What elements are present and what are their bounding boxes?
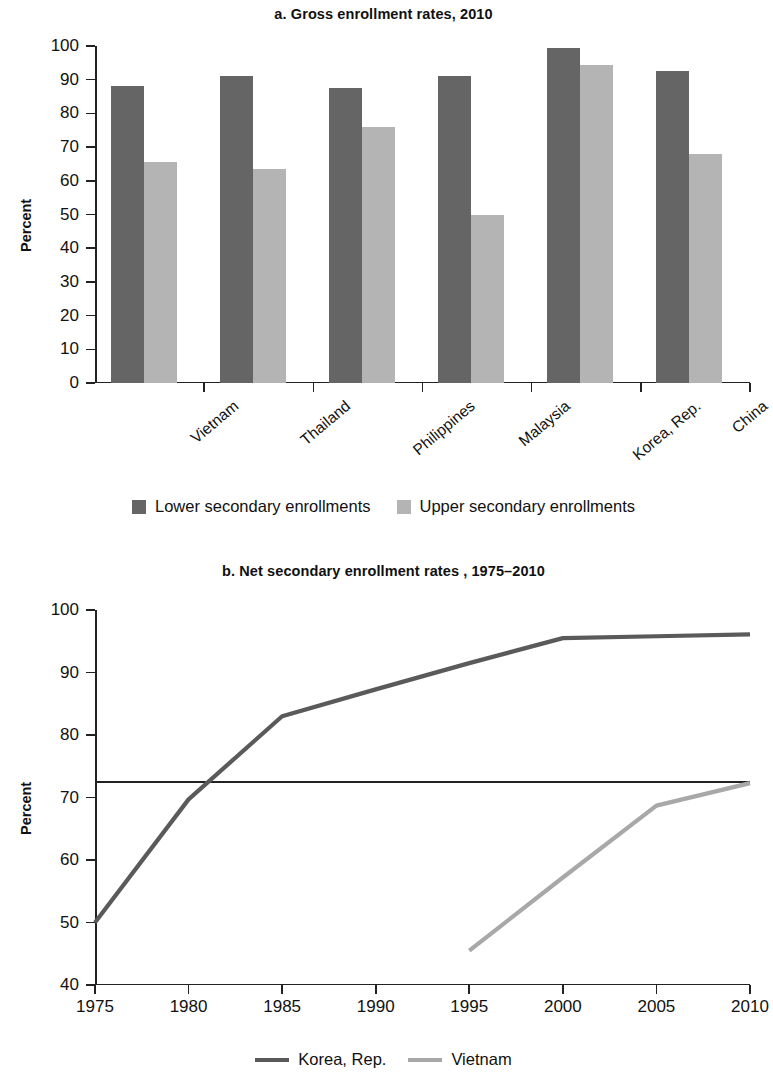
y-tick-label: 40 — [17, 976, 79, 993]
panel-b-legend: Korea, Rep. Vietnam — [0, 1050, 767, 1069]
y-tick-label: 70 — [17, 789, 79, 806]
bar-upper-secondary — [689, 154, 722, 383]
x-tick-label: 2000 — [523, 998, 603, 1015]
line-series-vietnam — [469, 783, 750, 951]
y-tick-label: 0 — [17, 374, 79, 391]
legend-label-vietnam: Vietnam — [451, 1050, 511, 1069]
y-tick-label: 100 — [17, 37, 79, 54]
y-tick-mark — [86, 315, 95, 317]
legend-label-korea: Korea, Rep. — [298, 1050, 386, 1069]
y-tick-label: 90 — [17, 664, 79, 681]
x-tick-label: 2010 — [710, 998, 773, 1015]
x-tick-label: 1985 — [242, 998, 322, 1015]
x-tick-mark — [375, 985, 377, 994]
y-tick-mark — [86, 609, 95, 611]
legend-item-korea: Korea, Rep. — [255, 1050, 386, 1069]
x-tick-label: 2005 — [616, 998, 696, 1015]
y-tick-mark — [86, 859, 95, 861]
line-series-korea — [95, 634, 750, 922]
category-label: Vietnam — [187, 397, 242, 447]
y-tick-mark — [86, 247, 95, 249]
panel-a-title: a. Gross enrollment rates, 2010 — [0, 6, 767, 22]
y-tick-label: 70 — [17, 138, 79, 155]
legend-line-icon-korea — [255, 1058, 289, 1062]
y-tick-mark — [86, 797, 95, 799]
legend-item-upper-secondary: Upper secondary enrollments — [397, 497, 636, 516]
y-tick-mark — [86, 734, 95, 736]
y-tick-label: 50 — [17, 206, 79, 223]
y-tick-mark — [86, 45, 95, 47]
y-tick-mark — [86, 281, 95, 283]
y-tick-mark — [86, 214, 95, 216]
x-tick-mark — [749, 383, 751, 392]
x-tick-mark — [562, 985, 564, 994]
panel-b-plot-area: 405060708090100 197519801985199019952000… — [95, 610, 750, 985]
y-tick-label: 90 — [17, 71, 79, 88]
bar-lower-secondary — [656, 71, 689, 383]
y-tick-mark — [86, 180, 95, 182]
x-tick-mark — [188, 985, 190, 994]
category-label: China — [729, 397, 772, 437]
bar-upper-secondary — [580, 65, 613, 383]
panel-b-line-series — [95, 610, 750, 985]
x-tick-label: 1975 — [55, 998, 135, 1015]
x-tick-mark — [203, 383, 205, 392]
bar-upper-secondary — [471, 215, 504, 384]
y-tick-mark — [86, 113, 95, 115]
panel-a-plot-area: 0102030405060708090100 VietnamThailandPh… — [95, 46, 750, 383]
y-tick-label: 10 — [17, 340, 79, 357]
y-tick-label: 60 — [17, 851, 79, 868]
bar-upper-secondary — [144, 162, 177, 383]
x-tick-mark — [656, 985, 658, 994]
y-tick-mark — [86, 922, 95, 924]
legend-label-lower: Lower secondary enrollments — [155, 497, 371, 516]
bar-upper-secondary — [253, 169, 286, 383]
x-tick-label: 1980 — [149, 998, 229, 1015]
legend-swatch-icon-lower — [132, 500, 146, 514]
x-tick-mark — [531, 383, 533, 392]
y-tick-label: 80 — [17, 726, 79, 743]
panel-b-title: b. Net secondary enrollment rates , 1975… — [0, 563, 767, 579]
legend-label-upper: Upper secondary enrollments — [420, 497, 636, 516]
x-tick-mark — [94, 985, 96, 994]
category-label: Thailand — [297, 397, 354, 449]
bar-lower-secondary — [329, 88, 362, 383]
x-tick-mark — [313, 383, 315, 392]
y-tick-mark — [86, 146, 95, 148]
y-tick-mark — [86, 79, 95, 81]
y-tick-label: 30 — [17, 273, 79, 290]
legend-item-lower-secondary: Lower secondary enrollments — [132, 497, 371, 516]
x-tick-mark — [640, 383, 642, 392]
legend-swatch-icon-upper — [397, 500, 411, 514]
legend-line-icon-vietnam — [408, 1058, 442, 1062]
bar-upper-secondary — [362, 127, 395, 383]
y-tick-label: 20 — [17, 307, 79, 324]
x-tick-mark — [468, 985, 470, 994]
bar-lower-secondary — [220, 76, 253, 383]
x-tick-label: 1995 — [429, 998, 509, 1015]
y-tick-label: 80 — [17, 104, 79, 121]
y-tick-label: 40 — [17, 239, 79, 256]
bar-lower-secondary — [438, 76, 471, 383]
x-tick-label: 1990 — [336, 998, 416, 1015]
x-tick-mark — [422, 383, 424, 392]
x-tick-mark — [281, 985, 283, 994]
panel-a-y-axis-line — [95, 46, 97, 383]
y-tick-mark — [86, 382, 95, 384]
y-tick-mark — [86, 349, 95, 351]
panel-b-net-enrollment-rates: b. Net secondary enrollment rates , 1975… — [0, 545, 767, 1088]
y-tick-label: 60 — [17, 172, 79, 189]
y-tick-label: 50 — [17, 914, 79, 931]
category-label: Korea, Rep. — [630, 397, 705, 464]
panel-a-legend: Lower secondary enrollments Upper second… — [0, 497, 767, 516]
y-tick-mark — [86, 672, 95, 674]
x-tick-mark — [749, 985, 751, 994]
bar-lower-secondary — [111, 86, 144, 383]
category-label: Philippines — [409, 397, 478, 459]
y-tick-label: 100 — [17, 601, 79, 618]
legend-item-vietnam: Vietnam — [408, 1050, 511, 1069]
bar-lower-secondary — [547, 48, 580, 383]
category-label: Malaysia — [515, 397, 573, 450]
panel-a-gross-enrollment-rates: a. Gross enrollment rates, 2010 Percent … — [0, 0, 767, 545]
